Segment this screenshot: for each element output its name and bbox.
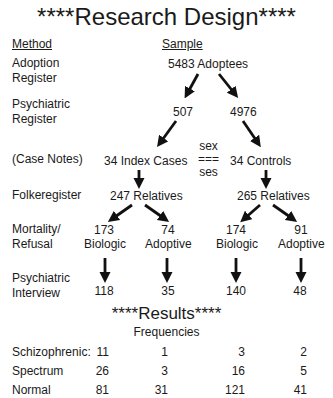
results-cell: 1 (138, 345, 168, 359)
results-row-label: Normal (12, 383, 51, 398)
results-row-label: Spectrum (12, 364, 63, 379)
results-cell: 31 (138, 383, 168, 397)
results-cell: 16 (215, 364, 245, 378)
results-subtitle: Frequencies (0, 325, 333, 339)
diagonal-arrow-icon (243, 121, 258, 143)
results-cell: 11 (79, 345, 109, 359)
results-cell: 81 (79, 383, 109, 397)
results-cell: 26 (79, 364, 109, 378)
results-cell: 3 (138, 364, 168, 378)
diagonal-arrow-icon (219, 74, 235, 94)
diagonal-arrow-icon (160, 121, 176, 143)
diagonal-arrow-icon (145, 205, 165, 219)
diagonal-arrow-icon (187, 74, 198, 94)
results-title: ****Results**** (0, 304, 333, 324)
diagonal-arrow-icon (273, 205, 293, 219)
results-cell: 121 (215, 383, 245, 397)
results-cell: 5 (277, 364, 307, 378)
results-cell: 41 (277, 383, 307, 397)
diagonal-arrow-icon (112, 205, 132, 219)
results-cell: 3 (215, 345, 245, 359)
results-cell: 2 (277, 345, 307, 359)
diagonal-arrow-icon (244, 205, 260, 219)
